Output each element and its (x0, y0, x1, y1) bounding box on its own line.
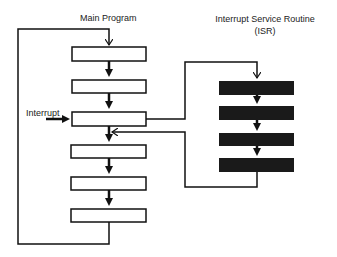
main-step-1 (72, 47, 146, 61)
main-step-6 (71, 209, 146, 222)
main-step-4 (71, 145, 146, 158)
main-step-3-interrupted (72, 112, 146, 126)
isr-step-3 (219, 133, 294, 146)
interrupt-flow-diagram (0, 0, 337, 257)
isr-step-1 (219, 81, 294, 95)
isr-step-4 (219, 158, 294, 172)
main-step-2 (72, 80, 146, 93)
main-step-5 (71, 177, 146, 190)
isr-step-2 (219, 106, 294, 120)
